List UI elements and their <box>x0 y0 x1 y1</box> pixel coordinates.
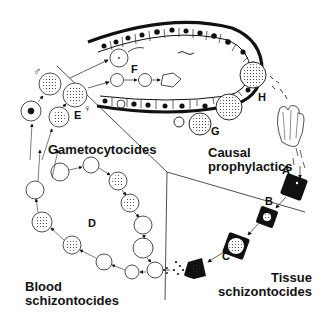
label-gametocytocides: Gametocytocides <box>48 143 156 157</box>
label-tissue-schizontocides: Tissue schizontocides <box>218 271 312 298</box>
female-symbol-icon: ♀ <box>83 103 91 115</box>
label-blood-line1: Blood <box>25 280 119 294</box>
label-causal-line1: Causal <box>208 146 293 160</box>
region-dividers <box>57 66 305 300</box>
stage-letter-h: H <box>258 92 266 104</box>
label-causal-prophylactics: Causal prophylactics <box>208 146 293 173</box>
label-tissue-line1: Tissue <box>218 271 312 285</box>
stage-letter-b: B <box>265 196 273 208</box>
label-tissue-line2: schizontocides <box>218 285 312 299</box>
label-causal-line2: prophylactics <box>208 160 293 174</box>
stage-letter-c: C <box>222 251 230 263</box>
liver-stages <box>157 173 308 279</box>
label-blood-line2: schizontocides <box>25 294 119 308</box>
stage-letter-e: E <box>74 110 81 122</box>
stage-f-zygote-ookinete <box>110 48 181 109</box>
male-symbol-icon: ♂ <box>33 66 41 78</box>
stage-letter-g: G <box>211 126 220 138</box>
stage-letter-f: F <box>131 64 138 76</box>
stage-letter-a: A <box>282 165 290 177</box>
label-blood-schizontocides: Blood schizontocides <box>25 280 119 307</box>
stage-letter-d: D <box>88 218 96 230</box>
